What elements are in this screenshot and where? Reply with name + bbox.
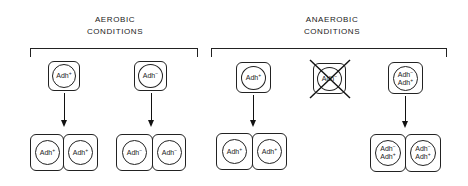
nucleus: Adh+ bbox=[68, 140, 93, 165]
cross-out-icon bbox=[308, 58, 352, 100]
genotype-label: Adh− bbox=[127, 149, 142, 157]
daughter-cell-adh-plus: Adh+ bbox=[63, 134, 98, 171]
nucleus: Adh+ bbox=[241, 66, 266, 90]
nucleus: Adh− bbox=[157, 140, 182, 165]
anaerobic-label: ANAEROBIC CONDITIONS bbox=[282, 14, 382, 38]
nucleus: Adh− Adh+ bbox=[375, 140, 401, 166]
genotype-line2: Adh+ bbox=[380, 153, 395, 161]
anaerobic-label-line1: ANAEROBIC bbox=[282, 14, 382, 26]
division-arrow bbox=[253, 95, 254, 122]
aerobic-label-line1: AEROBIC bbox=[70, 14, 160, 26]
genotype-label: Adh+ bbox=[246, 74, 261, 82]
daughter-cell-adh-minus-adh-plus: Adh− Adh+ bbox=[405, 134, 441, 172]
anaerobic-bracket bbox=[211, 48, 447, 57]
division-arrow bbox=[64, 93, 65, 122]
aerobic-bracket bbox=[30, 48, 198, 57]
parent-cell-adh-minus-adh-plus: Adh− Adh+ bbox=[388, 62, 423, 94]
daughter-cell-adh-plus: Adh+ bbox=[252, 133, 287, 170]
daughter-cell-adh-minus-adh-plus: Adh− Adh+ bbox=[370, 134, 406, 172]
daughter-cell-adh-plus: Adh+ bbox=[216, 133, 253, 170]
genotype-label: Adh− bbox=[162, 149, 177, 157]
aerobic-label: AEROBIC CONDITIONS bbox=[70, 14, 160, 38]
parent-cell-adh-plus: Adh+ bbox=[236, 62, 271, 93]
nucleus: Adh− bbox=[138, 64, 163, 88]
division-arrow bbox=[151, 93, 152, 122]
genotype-label: Adh+ bbox=[73, 149, 88, 157]
anaerobic-label-line2: CONDITIONS bbox=[282, 26, 382, 38]
nucleus: Adh+ bbox=[35, 140, 60, 165]
daughter-cell-adh-minus: Adh− bbox=[152, 134, 186, 171]
nucleus: Adh− bbox=[122, 140, 147, 165]
parent-cell-adh-plus: Adh+ bbox=[48, 61, 80, 91]
genotype-label: Adh− bbox=[143, 72, 158, 80]
genotype-line2: Adh+ bbox=[398, 79, 413, 87]
nucleus: Adh+ bbox=[222, 139, 247, 164]
genotype-label: Adh+ bbox=[227, 148, 242, 156]
genotype-label: Adh+ bbox=[40, 149, 55, 157]
nucleus: Adh− Adh+ bbox=[393, 66, 418, 91]
daughter-cell-adh-plus: Adh+ bbox=[30, 134, 64, 171]
parent-cell-adh-minus: Adh− bbox=[134, 61, 167, 91]
genotype-line2: Adh+ bbox=[415, 153, 430, 161]
genotype-label: Adh+ bbox=[262, 148, 277, 156]
aerobic-label-line2: CONDITIONS bbox=[70, 26, 160, 38]
division-arrow bbox=[405, 96, 406, 123]
nucleus: Adh+ bbox=[52, 64, 76, 88]
nucleus: Adh+ bbox=[257, 139, 282, 164]
daughter-cell-adh-minus: Adh− bbox=[116, 134, 153, 171]
nucleus: Adh− Adh+ bbox=[410, 140, 436, 166]
genotype-label: Adh+ bbox=[56, 72, 71, 80]
